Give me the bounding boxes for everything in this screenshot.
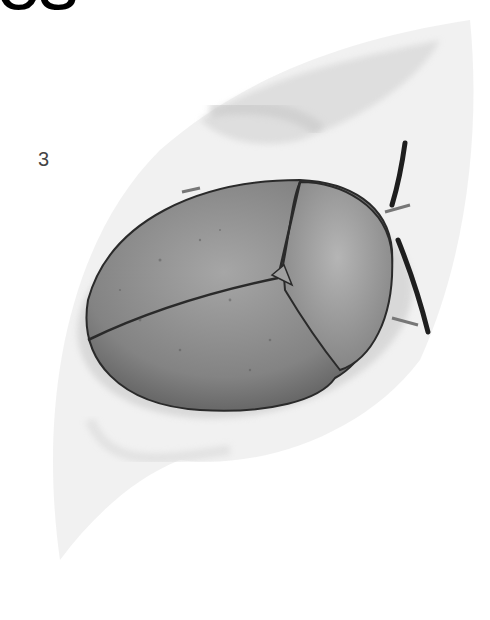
beetle-illustration	[0, 0, 490, 620]
